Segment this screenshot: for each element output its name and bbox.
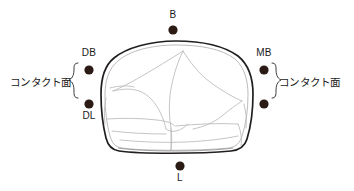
tooth-outer-outline [101,41,253,153]
contact-surface-label-right: コンタクト面 [279,77,341,88]
marker-label-b: B [170,9,177,20]
marker-l[interactable] [175,161,184,170]
marker-label-l: L [177,172,183,183]
marker-ml[interactable] [259,99,268,108]
marker-mb[interactable] [259,65,268,74]
marker-dl[interactable] [84,99,93,108]
marker-label-db: DB [82,47,96,58]
marker-b[interactable] [168,25,177,34]
tooth-diagram-svg [0,0,354,191]
marker-label-dl: DL [82,110,95,121]
contact-surface-label-left: コンタクト面 [10,77,72,88]
marker-label-mb: MB [256,47,271,58]
tooth-contact-diagram: B DB MB DL L コンタクト面 コンタクト面 [0,0,354,191]
marker-db[interactable] [84,65,93,74]
